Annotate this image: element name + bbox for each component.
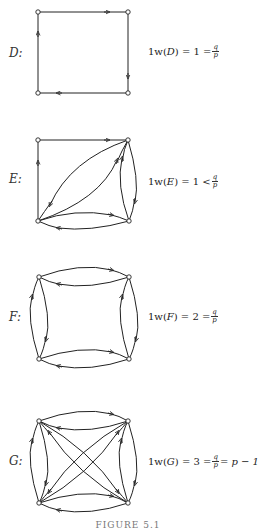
- figure-label-f: F:: [9, 310, 21, 324]
- graph-d: [38, 12, 128, 93]
- formula-d: 1w(D) = 1 = qp: [148, 44, 220, 59]
- graph-f: [30, 267, 138, 368]
- graph-g: [30, 411, 137, 512]
- formula-f: 1w(F) = 2 = qp: [148, 309, 219, 324]
- figure-label-d: D:: [9, 46, 23, 60]
- graph-e: [38, 140, 136, 229]
- formula-g: 1w(G) = 3 = qp = p − 1: [148, 454, 259, 469]
- formula-e: 1w(E) = 1 < qp: [148, 174, 219, 189]
- figure-caption: FIGURE 5.1: [0, 520, 256, 530]
- figure-label-e: E:: [9, 172, 22, 186]
- figure-label-g: G:: [9, 454, 23, 468]
